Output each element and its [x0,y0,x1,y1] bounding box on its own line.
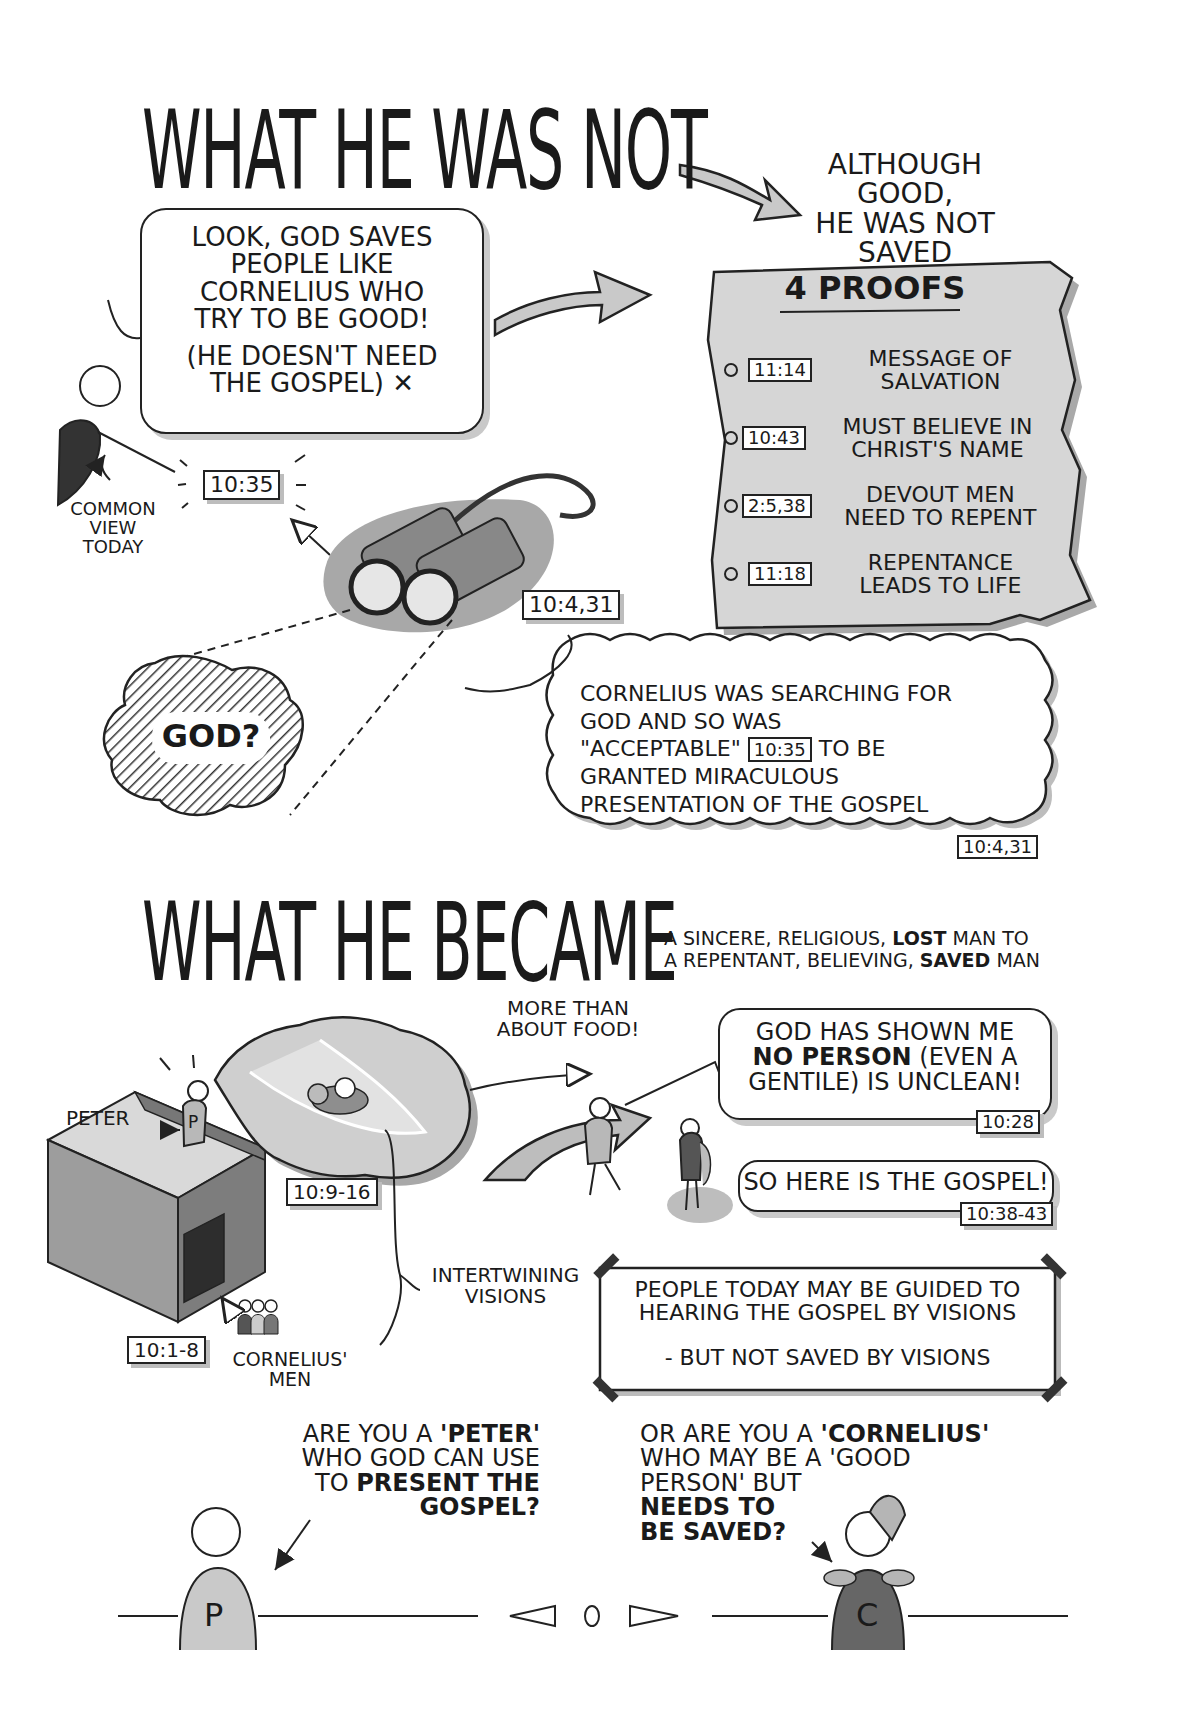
bullet-icon [724,363,738,377]
peter-question: ARE YOU A 'PETER' WHO GOD CAN USE TO PRE… [240,1422,540,1520]
ref-10-1-8: 10:1-8 [127,1336,206,1364]
thought-cloud-text: CORNELIUS WAS SEARCHING FOR GOD AND SO W… [580,680,1040,819]
proofs-title: 4 PROOFS [770,272,980,306]
peter-label: PETER [66,1108,129,1129]
proof-item: 2:5,38 DEVOUT MEN NEED TO REPENT [724,472,1069,540]
big-upward-arrow-icon [485,1105,650,1180]
ref-10-35: 10:35 [203,470,280,500]
common-view-today-label: COMMON VIEW TODAY [58,500,168,557]
peter-initial: P [204,1596,223,1634]
cornelius-initial: C [856,1596,878,1634]
ref-10-4-31: 10:4,31 [522,590,620,620]
intertwining-visions-label: INTERTWINING VISIONS [418,1265,593,1307]
note-guided-by-visions: PEOPLE TODAY MAY BE GUIDED TO HEARING TH… [605,1278,1050,1369]
proof-item: 11:18 REPENTANCE LEADS TO LIFE [724,540,1069,608]
section-title-what-he-was-not: WHAT HE WAS NOT [142,88,706,213]
peter-cornelius-meeting [585,1062,733,1223]
cross-icon: ✕ [392,368,414,398]
ref-10-4-31-thought: 10:4,31 [957,835,1038,859]
ref-10-28: 10:28 [976,1110,1040,1134]
more-than-food-label: MORE THAN ABOUT FOOD! [478,998,658,1040]
bullet-icon [724,567,738,581]
speech-bubble-no-person-unclean: GOD HAS SHOWN ME NO PERSON (EVEN A GENTI… [718,1008,1052,1120]
ref-10-38-43: 10:38-43 [960,1202,1053,1226]
bullet-icon [724,499,738,513]
speech-bubble-common-view: LOOK, GOD SAVES PEOPLE LIKE CORNELIUS WH… [140,208,484,434]
section-title-what-he-became: WHAT HE BECAME [142,880,677,1005]
proof-item: 11:14 MESSAGE OF SALVATION [724,336,1069,404]
ref-10-9-16: 10:9-16 [286,1178,378,1206]
bullet-icon [724,431,738,445]
cornelius-men-label: CORNELIUS' MEN [220,1350,360,1390]
god-question-label: GOD? [152,720,270,754]
peter-initial-roof: P [188,1112,198,1132]
callout-although-good: ALTHOUGH GOOD, HE WAS NOT SAVED [780,150,1030,268]
proof-item: 10:43 MUST BELIEVE IN CHRIST'S NAME [724,404,1069,472]
subtitle-transformation: A SINCERE, RELIGIOUS, LOST MAN TO A REPE… [664,928,1124,972]
proofs-list: 11:14 MESSAGE OF SALVATION 10:43 MUST BE… [724,336,1069,608]
cornelius-question: OR ARE YOU A 'CORNELIUS' WHO MAY BE A 'G… [640,1422,1000,1544]
big-arrow-icon [495,272,650,335]
cornelius-men-icon [222,1298,278,1334]
